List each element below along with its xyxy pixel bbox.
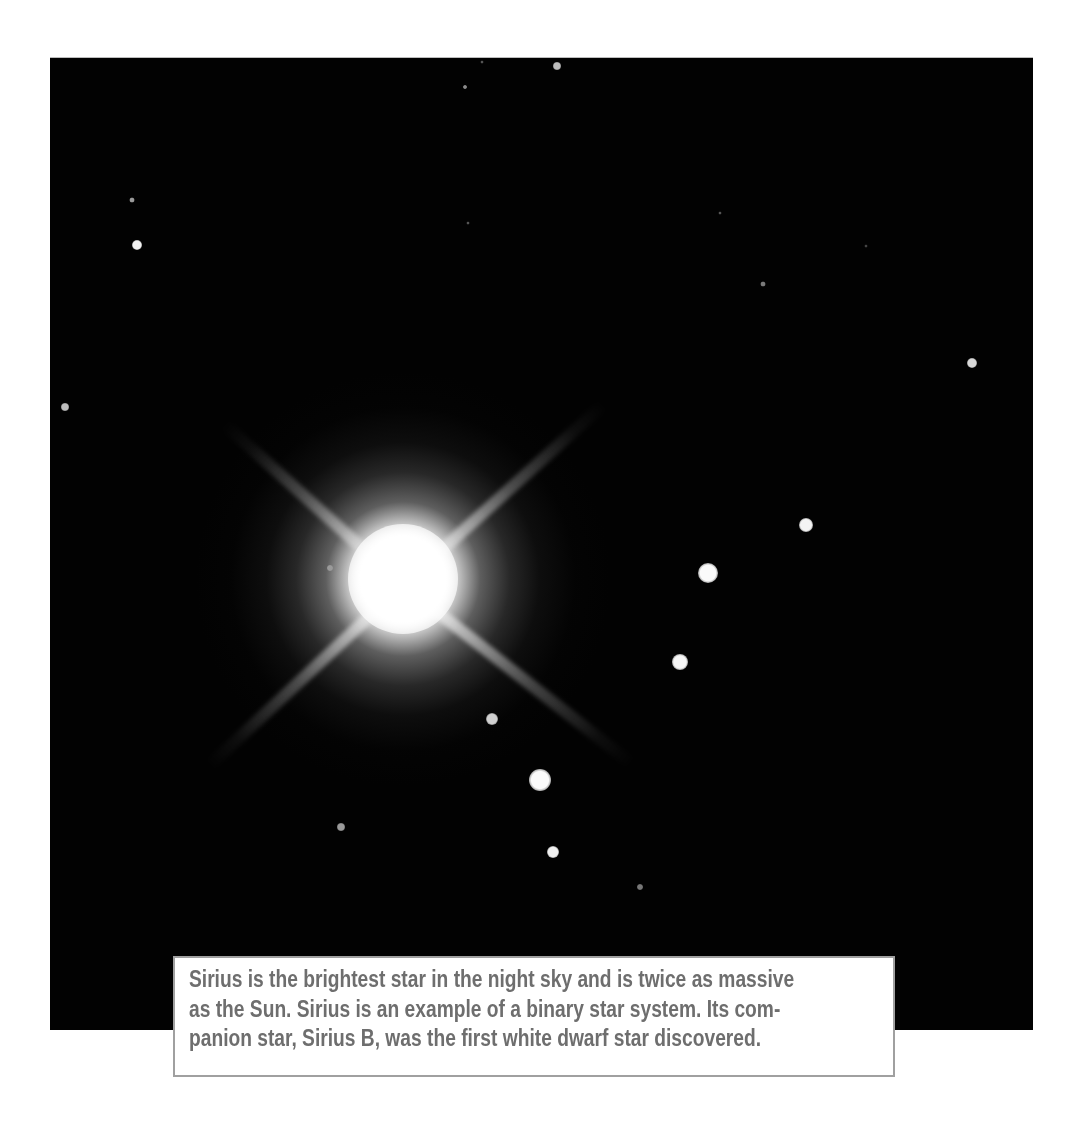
field-star bbox=[463, 85, 467, 89]
field-star bbox=[481, 61, 484, 64]
field-star bbox=[799, 518, 813, 532]
field-star bbox=[553, 62, 561, 70]
sirius-photograph bbox=[50, 57, 1033, 1030]
caption-line: panion star, Sirius B, was the first whi… bbox=[189, 1024, 882, 1054]
field-star bbox=[467, 222, 470, 225]
field-star bbox=[719, 212, 722, 215]
field-star bbox=[547, 846, 559, 858]
field-star bbox=[486, 713, 498, 725]
field-star bbox=[337, 823, 345, 831]
field-star bbox=[132, 240, 142, 250]
caption-line: as the Sun. Sirius is an example of a bi… bbox=[189, 995, 882, 1025]
caption-text: Sirius is the brightest star in the nigh… bbox=[189, 965, 882, 1054]
field-star bbox=[637, 884, 643, 890]
field-star bbox=[672, 654, 688, 670]
field-star bbox=[761, 282, 766, 287]
field-star bbox=[529, 769, 551, 791]
field-star bbox=[130, 198, 135, 203]
field-star bbox=[61, 403, 69, 411]
field-star bbox=[865, 245, 868, 248]
field-star bbox=[327, 565, 333, 571]
caption-box: Sirius is the brightest star in the nigh… bbox=[173, 956, 895, 1077]
field-star bbox=[967, 358, 977, 368]
sirius-star-core bbox=[348, 524, 458, 634]
caption-line: Sirius is the brightest star in the nigh… bbox=[189, 965, 882, 995]
field-star bbox=[698, 563, 718, 583]
